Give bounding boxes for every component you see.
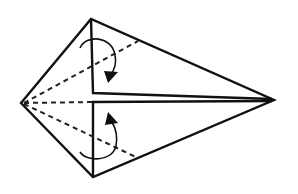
kite-fold-figure (0, 0, 298, 194)
lower-fold-arrow-icon (80, 112, 118, 159)
upper-fold-arrow-icon (80, 39, 118, 83)
origami-diagram (0, 0, 298, 194)
lower-valley-fold-line (24, 104, 138, 158)
center-crease-line (24, 102, 92, 103)
